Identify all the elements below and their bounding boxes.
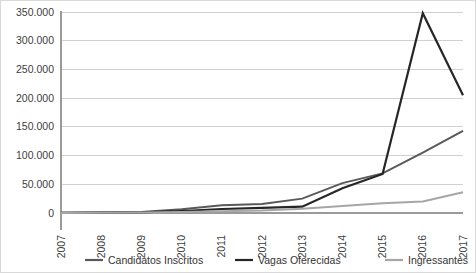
axis-lines bbox=[61, 11, 463, 230]
gridlines bbox=[61, 12, 463, 184]
legend-label-candidatos-inscritos: Candidatos Inscritos bbox=[108, 254, 203, 266]
y-tick-label: 250.000 bbox=[16, 63, 54, 75]
y-tick-label: 200.000 bbox=[16, 92, 54, 104]
line-chart: 050.000100.000150.000200.000250.000300.0… bbox=[1, 1, 476, 273]
y-tick-label: 300.000 bbox=[16, 34, 54, 46]
x-tick-label: 2011 bbox=[215, 235, 227, 258]
y-tick-label: 150.000 bbox=[16, 120, 54, 132]
x-tick-label: 2008 bbox=[95, 235, 107, 259]
chart-legend: Candidatos InscritosVagas OferecidasIngr… bbox=[85, 254, 468, 266]
chart-container: 050.000100.000150.000200.000250.000300.0… bbox=[0, 0, 476, 273]
y-tick-label: 100.000 bbox=[16, 149, 54, 161]
y-tick-label: 50.000 bbox=[22, 178, 54, 190]
series-line-candidatos-inscritos bbox=[61, 131, 463, 213]
x-tick-label: 2007 bbox=[55, 235, 67, 259]
legend-label-ingressantes: Ingressantes bbox=[408, 254, 468, 266]
x-tick-label: 2015 bbox=[376, 235, 388, 259]
data-series bbox=[61, 13, 463, 213]
y-tick-label: 350.000 bbox=[16, 6, 54, 18]
series-line-ingressantes bbox=[61, 192, 463, 213]
legend-label-vagas-oferecidas: Vagas Oferecidas bbox=[258, 254, 341, 266]
y-tick-label: 0 bbox=[48, 207, 54, 219]
series-line-vagas-oferecidas bbox=[61, 13, 463, 213]
y-axis-tick-labels: 050.000100.000150.000200.000250.000300.0… bbox=[16, 6, 54, 219]
